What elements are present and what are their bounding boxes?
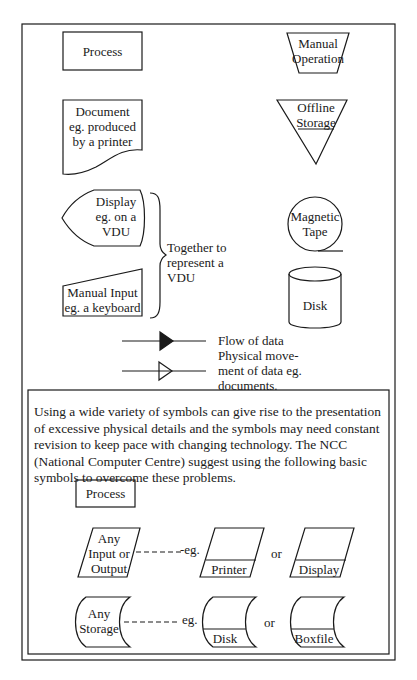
manual-operation-line1: Manual [288,36,348,51]
display-line1: Display [88,194,144,209]
flowchart-symbols-canvas [0,0,417,680]
ncc-process-label: Process [76,486,135,501]
disk-label: Disk [289,298,341,313]
ncc-or-1: or [271,546,282,561]
process-label: Process [63,44,142,59]
ncc-io-label: Any Input or Output [83,531,135,576]
ncc-disk-label: Disk [205,631,245,646]
ncc-io-line3: Output [83,561,135,576]
ncc-paragraph: Using a wide variety of symbols can give… [34,404,389,487]
manual-input-line1: Manual Input [63,285,142,300]
ncc-io-eg: -eg. [180,542,200,557]
manual-operation-label: Manual Operation [288,36,348,66]
offline-storage-line1: Offline [287,100,345,115]
manual-operation-line2: Operation [288,51,348,66]
manual-input-label: Manual Input eg. a keyboard [63,285,142,315]
manual-input-line2: eg. a keyboard [63,300,142,315]
ncc-or-2: or [264,615,275,630]
ncc-storage-line1: Any [76,606,122,621]
magnetic-tape-line1: Magnetic [288,209,342,224]
offline-storage-line2: Storage [287,115,345,130]
ncc-display-label: Display [293,562,345,577]
disk-top [289,267,341,281]
display-line3: VDU [88,224,144,239]
ncc-storage-line2: Storage [76,621,122,636]
arrows-line3: ment of data eg. [218,363,302,378]
ncc-boxfile-label: Boxfile [292,631,336,646]
arrows-line4: documents. [218,378,302,393]
display-line2: eg. on a [88,209,144,224]
document-label: Document eg. produced by a printer [63,104,142,149]
display-label: Display eg. on a VDU [88,194,144,239]
vdu-note-line2: represent a [167,255,226,270]
magnetic-tape-label: Magnetic Tape [288,209,342,239]
ncc-storage-label: Any Storage [76,606,122,636]
offline-storage-label: Offline Storage [287,100,345,130]
document-line1: Document [63,104,142,119]
arrows-legend: Flow of data Physical move- ment of data… [218,333,302,393]
vdu-note-line1: Together to [167,240,226,255]
vdu-brace-note: Together to represent a VDU [167,240,226,285]
document-line2: eg. produced [63,119,142,134]
ncc-io-line2: Input or [83,546,135,561]
document-line3: by a printer [63,134,142,149]
vdu-note-line3: VDU [167,270,226,285]
ncc-printer-label: Printer [204,562,254,577]
ncc-storage-eg: eg. [182,612,198,627]
vdu-brace [150,193,166,318]
ncc-io-line1: Any [83,531,135,546]
magnetic-tape-line2: Tape [288,224,342,239]
arrows-line1: Flow of data [218,333,302,348]
arrows-line2: Physical move- [218,348,302,363]
flow-of-data-arrowhead [160,332,173,350]
